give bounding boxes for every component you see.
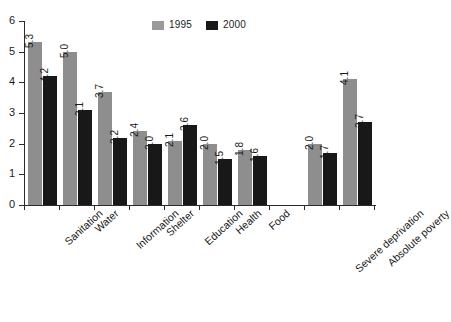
bar-2000: 2.6 [183, 125, 197, 205]
bar-1995: 2.1 [168, 141, 182, 205]
bar-group [273, 21, 306, 205]
bar-group: 1.81.6 [238, 21, 271, 205]
bar-group: 5.03.1 [63, 21, 96, 205]
bar-value-label: 2.4 [129, 123, 140, 137]
bar-value-label: 2.0 [304, 136, 315, 150]
bar-value-label: 3.1 [74, 102, 85, 116]
x-label-food: Food [266, 207, 292, 232]
y-tick-label-5: 5 [0, 45, 15, 57]
bar-group: 2.01.7 [308, 21, 341, 205]
bar-1995: 3.7 [98, 92, 112, 205]
y-tick-label-3: 3 [0, 106, 15, 118]
y-tick-label-4: 4 [0, 75, 15, 87]
bar-2000: 2.0 [148, 144, 162, 205]
y-tick-6: 6 [19, 21, 24, 22]
bar-group: 5.34.2 [28, 21, 61, 205]
bar-group: 2.01.5 [203, 21, 236, 205]
y-tick-5: 5 [19, 52, 24, 53]
bar-2000: 1.6 [253, 156, 267, 205]
bar-2000: 2.2 [113, 138, 127, 205]
bar-value-label: 4.1 [339, 71, 350, 85]
plot-area: 0123456 5.34.25.03.13.72.22.42.02.12.62.… [26, 21, 376, 205]
x-tick-0 [24, 206, 25, 210]
bar-value-label: 2.0 [144, 136, 155, 150]
y-tick-4: 4 [19, 82, 24, 83]
bar-value-label: 1.8 [234, 142, 245, 156]
bar-2000: 1.7 [323, 153, 337, 205]
bar-1995: 5.0 [63, 52, 77, 205]
y-tick-2: 2 [19, 144, 24, 145]
y-tick-label-6: 6 [0, 14, 15, 26]
bar-group: 2.42.0 [133, 21, 166, 205]
bar-value-label: 3.7 [94, 84, 105, 98]
bar-2000: 2.7 [358, 122, 372, 205]
bar-group: 4.12.7 [343, 21, 376, 205]
bar-2000: 3.1 [78, 110, 92, 205]
bar-value-label: 1.5 [214, 151, 225, 165]
bar-value-label: 2.7 [354, 114, 365, 128]
y-axis-line [24, 21, 25, 205]
bar-group: 2.12.6 [168, 21, 201, 205]
bar-value-label: 4.2 [39, 68, 50, 82]
bar-value-label: 5.0 [59, 44, 70, 58]
bar-value-label: 1.6 [249, 148, 260, 162]
y-tick-label-0: 0 [0, 198, 15, 210]
bar-2000: 1.5 [218, 159, 232, 205]
bar-1995: 5.3 [28, 42, 42, 205]
y-tick-label-2: 2 [0, 137, 15, 149]
bar-value-label: 5.3 [24, 35, 35, 49]
bar-1995: 4.1 [343, 79, 357, 205]
bar-value-label: 2.6 [179, 117, 190, 131]
x-axis-line [24, 205, 376, 206]
y-tick-1: 1 [19, 174, 24, 175]
y-tick-label-1: 1 [0, 167, 15, 179]
bar-value-label: 2.2 [109, 130, 120, 144]
bar-value-label: 2.0 [199, 136, 210, 150]
bar-group: 3.72.2 [98, 21, 131, 205]
bar-value-label: 2.1 [164, 133, 175, 147]
x-axis-category-labels: SanitationWaterInformationShelterEducati… [26, 207, 378, 317]
bar-value-label: 1.7 [319, 145, 330, 159]
bar-2000: 4.2 [43, 76, 57, 205]
y-tick-3: 3 [19, 113, 24, 114]
